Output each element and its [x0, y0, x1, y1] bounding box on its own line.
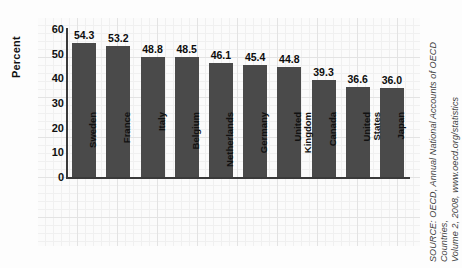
y-axis-title: Percent [10, 36, 22, 78]
y-tick-label: 0 [38, 172, 64, 182]
x-axis-category-label: Italy [157, 112, 167, 182]
y-tick-label: 60 [38, 24, 64, 34]
x-axis-category-label: Canada [328, 112, 338, 182]
bar-value-label: 46.1 [203, 49, 239, 61]
bar-value-label: 39.3 [306, 66, 342, 78]
x-axis-category-label: Belgium [191, 112, 201, 182]
x-axis-category-label: Germany [259, 112, 269, 182]
x-axis-category-label: United States [362, 112, 382, 182]
y-tick-label: 30 [38, 98, 64, 108]
bar-value-label: 54.3 [66, 29, 102, 41]
bar-value-label: 48.8 [135, 43, 171, 55]
bar-value-label: 48.5 [169, 43, 205, 55]
y-tick-label: 50 [38, 49, 64, 59]
x-axis-line [66, 177, 410, 179]
y-tick-label: 10 [38, 147, 64, 157]
y-tick-label: 40 [38, 73, 64, 83]
x-axis-category-label: France [122, 112, 132, 182]
x-axis-category-label: Netherlands [225, 112, 235, 182]
y-tick-label: 20 [38, 123, 64, 133]
x-axis-category-label: United Kingdom [293, 112, 313, 182]
bar-value-label: 44.8 [271, 53, 307, 65]
bar-value-label: 45.4 [237, 51, 273, 63]
bar-value-label: 36.6 [340, 73, 376, 85]
x-axis-category-label: Sweden [88, 112, 98, 182]
chart-figure: Percent 0102030405060 54.353.248.848.546… [0, 0, 462, 268]
bar-value-label: 36.0 [374, 74, 410, 86]
x-axis-category-label: Japan [396, 112, 406, 182]
plot-area: 54.353.248.848.546.145.444.839.336.636.0 [67, 29, 409, 177]
source-citation: SOURCE: OECD, Annual National Accounts o… [428, 6, 461, 262]
y-axis-tick-labels: 0102030405060 [36, 29, 64, 177]
bar-value-label: 53.2 [100, 32, 136, 44]
